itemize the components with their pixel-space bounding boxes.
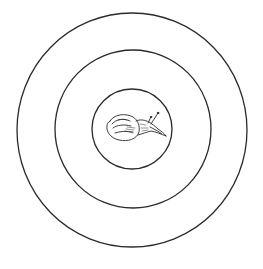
- inner-ring: [92, 89, 172, 169]
- illustration-canvas: Line drawing of a snail at the center of…: [0, 0, 263, 269]
- middle-ring: [55, 50, 211, 208]
- snail-icon: [107, 112, 166, 140]
- concentric-rings-drawing: [0, 0, 263, 269]
